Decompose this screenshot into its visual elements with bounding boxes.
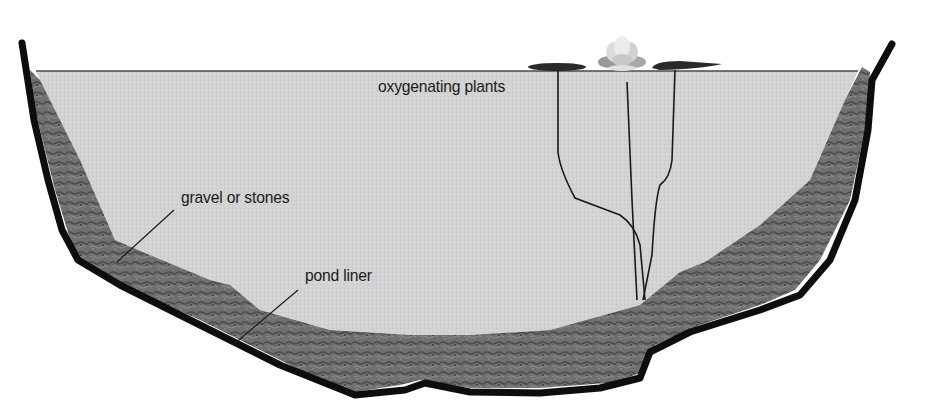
label-oxygenating-plants: oxygenating plants [378, 77, 505, 97]
lily-pad-right [652, 61, 722, 70]
pond-cross-section [0, 0, 927, 418]
pond-diagram: oxygenating plants gravel or stones pond… [0, 0, 927, 418]
lily-pad-left [528, 63, 586, 71]
water-lily-flower [598, 36, 646, 71]
label-pond-liner: pond liner [305, 266, 372, 286]
label-gravel-or-stones: gravel or stones [181, 188, 289, 208]
